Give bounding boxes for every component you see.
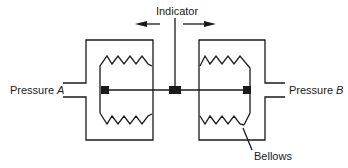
pressure-b-label: Pressure B: [289, 84, 343, 96]
pressure-a-label: Pressure A: [10, 84, 64, 96]
indicator-block: [169, 86, 181, 94]
bellows-leader-line: [243, 128, 252, 150]
bellows-label: Bellows: [254, 150, 292, 162]
left-bellows-end-block: [101, 86, 109, 94]
indicator-label: Indicator: [156, 5, 199, 17]
right-bellows-end-block: [243, 86, 251, 94]
right-arrow-icon: [204, 21, 216, 27]
left-arrow-icon: [135, 21, 147, 27]
differential-pressure-diagram: Indicator Pressure A Pressure B Bellows: [0, 0, 348, 168]
